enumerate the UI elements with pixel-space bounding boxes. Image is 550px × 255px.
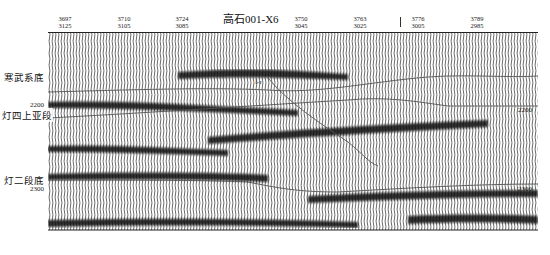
horizon-label-cambrian-base: 寒武系底	[3, 70, 45, 84]
tick-cdp: 3724	[170, 15, 194, 22]
depth-label-left-2200: 2200	[30, 101, 44, 109]
tick-cdp: 3763	[348, 15, 372, 22]
tick-trace: 3085	[170, 22, 194, 29]
tick-label: 3750 3045	[289, 15, 313, 29]
tick-cdp: 3776	[406, 15, 430, 22]
depth-label-left-2300: 2300	[30, 185, 44, 193]
depth-label-right-2300: 2300	[518, 185, 532, 193]
tick-trace: 3005	[406, 22, 430, 29]
seismic-section-figure: 高石001-X6 3697 3125 3710 3105 3724 3085 3…	[0, 0, 550, 255]
tick-label: 3710 3105	[112, 15, 136, 29]
well-name-title: 高石001-X6	[223, 10, 279, 26]
tick-cdp: 3750	[289, 15, 313, 22]
seismic-wiggle-panel	[48, 32, 538, 232]
tick-label: 3789 2985	[465, 15, 489, 29]
tick-trace: 3125	[53, 22, 77, 29]
tick-label: 3776 3005	[406, 15, 430, 29]
tick-cdp: 3697	[53, 15, 77, 22]
tick-label: 3697 3125	[53, 15, 77, 29]
tick-cdp: 3710	[112, 15, 136, 22]
tick-trace: 3045	[289, 22, 313, 29]
tick-label: 3763 3025	[348, 15, 372, 29]
tick-trace: 3105	[112, 22, 136, 29]
tick-trace: 3025	[348, 22, 372, 29]
well-position-marker	[400, 17, 401, 27]
horizon-label-deng4-upper: 灯四上亚段	[1, 108, 53, 122]
well-annotation: Ⅰ-ε	[255, 78, 262, 85]
tick-cdp: 3789	[465, 15, 489, 22]
tick-trace: 2985	[465, 22, 489, 29]
depth-label-right-2200: 2200	[518, 106, 532, 114]
tick-label: 3724 3085	[170, 15, 194, 29]
